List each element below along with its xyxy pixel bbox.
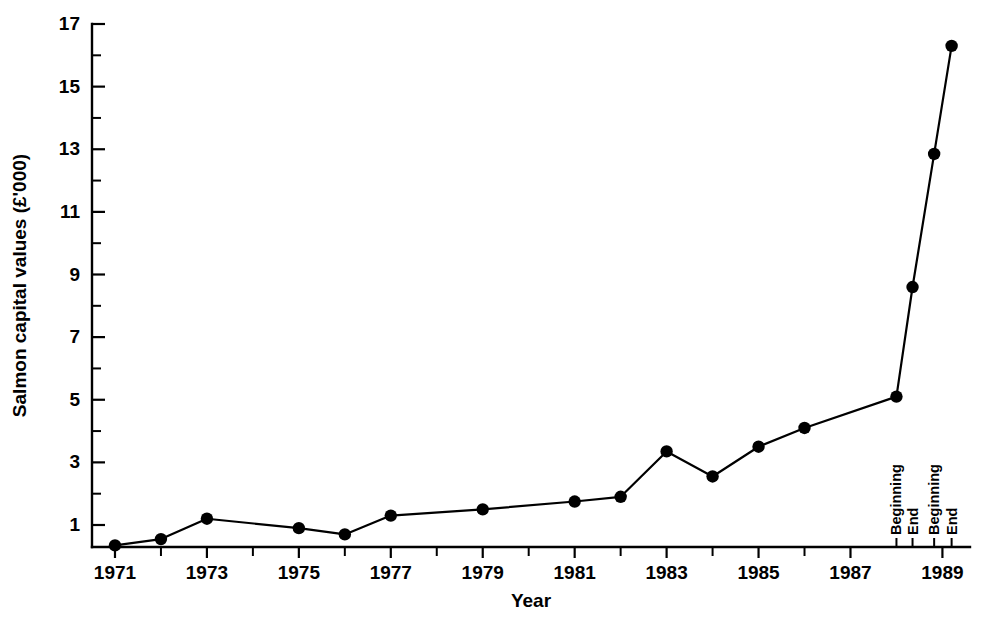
x-tick-label: 1987: [829, 562, 871, 583]
phase-tick-label: End: [944, 508, 960, 535]
data-point[interactable]: [945, 40, 957, 52]
data-point[interactable]: [906, 281, 918, 293]
phase-tick-label: Beginning: [926, 464, 942, 535]
phase-tick-label: End: [905, 508, 921, 535]
data-point[interactable]: [201, 513, 213, 525]
x-tick-label: 1977: [370, 562, 412, 583]
data-point[interactable]: [568, 495, 580, 507]
data-point[interactable]: [293, 522, 305, 534]
data-point[interactable]: [660, 445, 672, 457]
data-point[interactable]: [155, 533, 167, 545]
x-tick-label: 1981: [554, 562, 597, 583]
y-axis-title: Salmon capital values (£'000): [9, 154, 30, 417]
phase-tick-label: Beginning: [888, 464, 904, 535]
x-tick-label: 1973: [186, 562, 228, 583]
y-tick-label: 1: [69, 514, 80, 535]
y-tick-label: 3: [69, 451, 80, 472]
x-tick-label: 1985: [737, 562, 780, 583]
y-tick-label: 9: [69, 264, 80, 285]
y-tick-label: 5: [69, 389, 80, 410]
x-tick-label: 1979: [462, 562, 504, 583]
data-point[interactable]: [614, 491, 626, 503]
series-line-0: [115, 46, 952, 545]
data-point[interactable]: [798, 422, 810, 434]
y-tick-label: 15: [59, 76, 81, 97]
data-point[interactable]: [339, 528, 351, 540]
x-axis-title: Year: [511, 590, 552, 611]
data-point[interactable]: [385, 509, 397, 521]
data-point[interactable]: [928, 148, 940, 160]
data-point[interactable]: [477, 503, 489, 515]
data-point[interactable]: [890, 390, 902, 402]
data-point[interactable]: [706, 470, 718, 482]
data-point[interactable]: [752, 441, 764, 453]
y-tick-label: 7: [69, 326, 80, 347]
chart-container: 1715131197531197119731975197719791981198…: [0, 0, 990, 624]
y-tick-label: 17: [59, 13, 80, 34]
data-point[interactable]: [109, 539, 121, 551]
line-chart: 1715131197531197119731975197719791981198…: [0, 0, 990, 624]
x-tick-label: 1983: [645, 562, 687, 583]
y-tick-label: 11: [60, 201, 81, 222]
x-tick-label: 1975: [278, 562, 321, 583]
x-tick-label: 1989: [921, 562, 963, 583]
y-tick-label: 13: [59, 138, 80, 159]
x-tick-label: 1971: [94, 562, 137, 583]
